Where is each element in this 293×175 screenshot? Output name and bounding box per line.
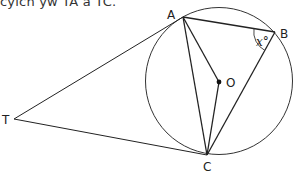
chord-ab [183, 17, 275, 32]
geometry-diagram: A B C O T x° [0, 0, 293, 175]
label-c: C [203, 160, 211, 174]
centre-point-o [217, 80, 222, 85]
tangent-line-ta [14, 17, 183, 119]
angle-label-x: x° [256, 35, 269, 49]
label-t: T [1, 113, 10, 127]
label-a: A [167, 8, 176, 22]
label-b: B [280, 27, 288, 41]
tangent-line-tc [14, 119, 207, 155]
label-o: O [226, 76, 235, 90]
